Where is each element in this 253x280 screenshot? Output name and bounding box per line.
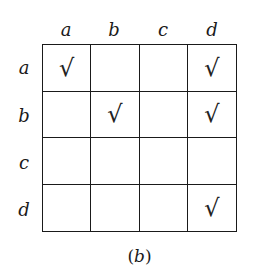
matrix-cell-c-a — [43, 138, 91, 185]
matrix-cell-c-b — [91, 138, 139, 185]
caption-letter: b — [134, 246, 145, 266]
column-label-d: d — [188, 20, 236, 40]
row-label-a: a — [14, 58, 34, 78]
matrix-cell-b-c — [140, 92, 188, 139]
matrix-cell-b-d: √ — [188, 92, 236, 139]
checkmark-icon: √ — [204, 194, 219, 222]
row-label-c: c — [14, 153, 34, 173]
checkmark-icon: √ — [204, 100, 219, 128]
caption-close-paren: ) — [145, 246, 152, 266]
column-label-b: b — [90, 20, 138, 40]
matrix-cell-a-b — [91, 45, 139, 92]
matrix-cell-c-d — [188, 138, 236, 185]
checkmark-icon: √ — [107, 100, 122, 128]
checkmark-icon: √ — [59, 54, 74, 82]
matrix-cell-d-c — [140, 185, 188, 232]
checkmark-icon: √ — [204, 54, 219, 82]
matrix-cell-a-c — [140, 45, 188, 92]
matrix-cell-b-b: √ — [91, 92, 139, 139]
column-label-a: a — [42, 20, 90, 40]
figure-caption: (b) — [0, 246, 253, 266]
matrix-grid: √√√√√ — [42, 44, 237, 232]
matrix-cell-b-a — [43, 92, 91, 139]
matrix-cell-d-d: √ — [188, 185, 236, 232]
row-label-b: b — [14, 106, 34, 126]
row-label-d: d — [14, 200, 34, 220]
matrix-cell-a-a: √ — [43, 45, 91, 92]
matrix-cell-c-c — [140, 138, 188, 185]
column-label-c: c — [139, 20, 187, 40]
matrix-cell-d-b — [91, 185, 139, 232]
matrix-cell-d-a — [43, 185, 91, 232]
matrix-cell-a-d: √ — [188, 45, 236, 92]
